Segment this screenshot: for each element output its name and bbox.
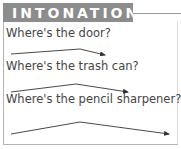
intonation-arrow-2-icon: [11, 84, 128, 92]
intonation-arrows: [0, 0, 181, 149]
intonation-arrow-1-icon: [11, 49, 105, 55]
intonation-arrow-3-icon: [11, 122, 169, 134]
